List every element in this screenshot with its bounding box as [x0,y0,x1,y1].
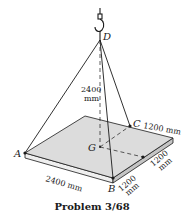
point-A [23,151,26,154]
dim-height-value: 2400 [81,85,101,94]
label-C: C [133,118,141,129]
label-B: B [107,183,115,194]
dim-height-unit: mm [84,94,100,103]
plate-hoist-diagram: D A B C G 2400 mm 2400 mm 1200 mm 1200 m… [0,0,185,214]
point-C [128,124,131,127]
dim-AB: 2400 mm [44,174,83,193]
label-A: A [13,148,21,159]
label-G: G [88,142,96,153]
point-G [99,146,101,148]
caption: Problem 3/68 [54,201,129,212]
label-D: D [102,31,111,42]
edge-midpoint [141,155,144,158]
point-B [111,176,114,179]
